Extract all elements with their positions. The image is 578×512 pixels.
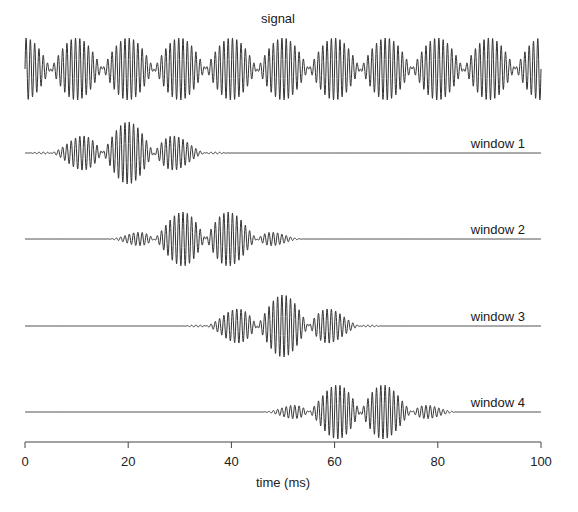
x-axis	[25, 442, 541, 448]
traces	[25, 38, 541, 439]
window-4-label: window 4	[471, 395, 525, 410]
window-1-label: window 1	[471, 136, 525, 151]
x-tick-label: 20	[121, 454, 135, 469]
x-axis-label: time (ms)	[256, 475, 310, 490]
trace-window-2	[25, 212, 541, 266]
trace-window-4	[25, 385, 541, 439]
x-tick-label: 80	[431, 454, 445, 469]
chart-title: signal	[261, 11, 295, 26]
chart-canvas	[0, 0, 578, 512]
x-tick-label: 60	[327, 454, 341, 469]
trace-window-3	[25, 295, 541, 357]
x-tick-label: 100	[530, 454, 552, 469]
x-tick-label: 40	[224, 454, 238, 469]
x-tick-label: 0	[21, 454, 28, 469]
trace-signal	[25, 38, 541, 100]
window-2-label: window 2	[471, 222, 525, 237]
window-3-label: window 3	[471, 309, 525, 324]
trace-window-1	[25, 122, 541, 184]
